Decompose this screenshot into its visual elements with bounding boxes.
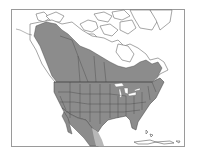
- map-svg: [0, 0, 200, 157]
- range-map: [0, 0, 200, 157]
